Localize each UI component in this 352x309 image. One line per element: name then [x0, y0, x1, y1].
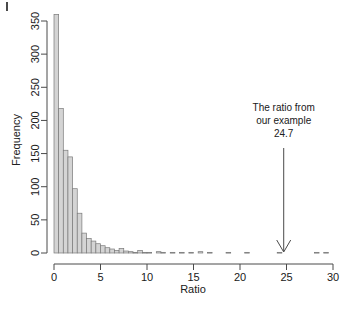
histogram-bar — [128, 252, 133, 253]
y-axis-ticks: 050100150200250300350 — [29, 12, 47, 256]
y-tick-label: 350 — [29, 12, 41, 30]
y-tick-label: 0 — [29, 250, 41, 256]
histogram-bar — [133, 252, 138, 253]
x-tick-label: 0 — [51, 271, 57, 283]
histogram-bar — [114, 250, 119, 253]
histogram-bar — [180, 252, 185, 253]
histogram-bar — [68, 157, 73, 253]
histogram-bar — [54, 14, 59, 253]
histogram-bar — [147, 252, 152, 253]
x-axis-label: Ratio — [180, 283, 206, 295]
y-tick-label: 300 — [29, 45, 41, 63]
histogram-bar — [189, 252, 194, 253]
histogram-figure: 050100150200250300350 051015202530 Frequ… — [0, 0, 352, 309]
histogram-bar — [110, 249, 115, 253]
annotation-line-2: our example — [256, 115, 311, 126]
histogram-bar — [324, 252, 329, 253]
annotation-line-1: The ratio from — [253, 102, 315, 113]
x-tick-label: 25 — [280, 271, 292, 283]
y-tick-label: 50 — [29, 214, 41, 226]
histogram-plot: 050100150200250300350 051015202530 Frequ… — [0, 0, 352, 309]
histogram-bar — [245, 252, 250, 253]
x-tick-label: 20 — [234, 271, 246, 283]
page-edge-mark — [6, 2, 8, 11]
histogram-bar — [314, 252, 319, 253]
histogram-bar — [96, 244, 101, 253]
y-tick-label: 200 — [29, 111, 41, 129]
histogram-bar — [277, 252, 282, 253]
annotation-line-3: 24.7 — [274, 128, 294, 139]
histogram-bar — [87, 238, 92, 253]
histogram-bar — [59, 109, 64, 254]
histogram-bar — [119, 248, 124, 253]
histogram-bar — [161, 252, 166, 253]
y-tick-label: 100 — [29, 178, 41, 196]
histogram-bar — [142, 252, 147, 253]
y-axis-label: Frequency — [10, 114, 22, 166]
histogram-bar — [226, 252, 231, 253]
y-tick-label: 150 — [29, 144, 41, 162]
histogram-bar — [77, 213, 82, 253]
histogram-bar — [101, 246, 106, 253]
x-tick-label: 10 — [141, 271, 153, 283]
histogram-bar — [124, 251, 129, 253]
x-tick-label: 5 — [97, 271, 103, 283]
histogram-bar — [105, 248, 110, 253]
histogram-bar — [63, 150, 68, 253]
x-tick-label: 30 — [327, 271, 339, 283]
histogram-bar — [82, 233, 87, 253]
histogram-bar — [138, 250, 143, 253]
histogram-bar — [198, 252, 203, 253]
y-tick-label: 250 — [29, 78, 41, 96]
histogram-bar — [91, 241, 96, 253]
histogram-bar — [73, 189, 78, 253]
histogram-bar — [156, 252, 161, 253]
histogram-bar — [207, 252, 212, 253]
x-tick-label: 15 — [187, 271, 199, 283]
annotation-group: The ratio from our example 24.7 — [253, 102, 315, 252]
histogram-bar — [170, 252, 175, 253]
x-axis-ticks: 051015202530 — [51, 264, 339, 283]
